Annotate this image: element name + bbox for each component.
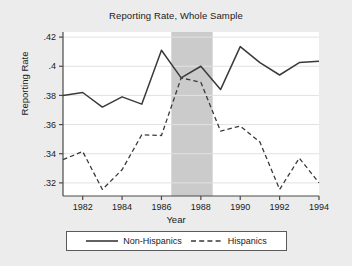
plot-area: .32.34.36.38.4.4219821984198619881990199… (0, 0, 352, 266)
x-tick-label: 1992 (270, 202, 290, 212)
legend-item-hispanics: Hispanics (191, 236, 267, 246)
y-tick-label: .32 (43, 178, 56, 188)
y-tick-label: .36 (43, 120, 56, 130)
x-tick-label: 1982 (73, 202, 93, 212)
x-tick-label: 1984 (112, 202, 132, 212)
legend-item-non-hispanics: Non-Hispanics (86, 236, 182, 246)
x-tick-label: 1994 (309, 202, 329, 212)
legend-label-non-hispanics: Non-Hispanics (123, 236, 182, 246)
y-tick-label: .42 (43, 32, 56, 42)
legend-swatch-solid-icon (86, 237, 118, 245)
y-tick-label: .38 (43, 91, 56, 101)
x-tick-label: 1986 (151, 202, 171, 212)
y-tick-label: .34 (43, 149, 56, 159)
y-tick-label: .4 (48, 61, 56, 71)
x-tick-label: 1990 (230, 202, 250, 212)
x-tick-label: 1988 (191, 202, 211, 212)
legend-label-hispanics: Hispanics (228, 236, 267, 246)
shaded-region (171, 32, 212, 196)
legend-swatch-dashed-icon (191, 237, 223, 245)
chart-legend: Non-Hispanics Hispanics (66, 231, 287, 251)
chart-figure: Reporting Rate, Whole Sample Reporting R… (0, 0, 352, 266)
